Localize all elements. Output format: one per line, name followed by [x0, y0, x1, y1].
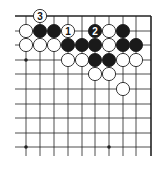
black-stone-circle [88, 38, 101, 51]
white-stone-circle [19, 24, 32, 37]
black-stone-circle [102, 53, 115, 66]
white-stone-circle [47, 38, 60, 51]
hoshi-point [24, 145, 28, 149]
white-stone [61, 53, 74, 66]
go-board-diagram: 312 [0, 0, 163, 171]
stones-layer: 312 [19, 9, 142, 95]
white-stone [47, 38, 60, 51]
white-stone [116, 53, 129, 66]
white-stone-circle [61, 53, 74, 66]
black-stone-circle [129, 38, 142, 51]
white-stone [102, 24, 115, 37]
black-stone [129, 38, 142, 51]
white-stone [102, 38, 115, 51]
black-stone-circle [88, 53, 101, 66]
black-stone-circle [61, 38, 74, 51]
white-stone [75, 53, 88, 66]
white-stone-circle [88, 67, 101, 80]
white-stone [19, 24, 32, 37]
white-stone [129, 53, 142, 66]
white-stone-circle [116, 82, 129, 95]
white-stone [19, 38, 32, 51]
black-stone-circle [116, 38, 129, 51]
black-stone [88, 38, 101, 51]
black-stone [61, 38, 74, 51]
black-stone [47, 24, 60, 37]
white-stone-circle [75, 53, 88, 66]
move-number-label: 2 [92, 26, 98, 37]
black-stone-circle [116, 24, 129, 37]
black-stone [102, 53, 115, 66]
white-stone [88, 67, 101, 80]
hoshi-point [24, 58, 28, 62]
white-stone-circle [33, 38, 46, 51]
hoshi-point [107, 145, 111, 149]
black-stone-circle [75, 38, 88, 51]
white-stone-circle [19, 38, 32, 51]
black-stone [33, 24, 46, 37]
white-stone-circle [129, 53, 142, 66]
white-stone-circle [116, 53, 129, 66]
board-grid [15, 16, 151, 156]
white-stone [116, 82, 129, 95]
white-stone-circle [102, 24, 115, 37]
white-stone-circle [102, 38, 115, 51]
move-number-label: 3 [37, 11, 43, 22]
black-stone [116, 38, 129, 51]
white-stone [102, 67, 115, 80]
black-stone [88, 53, 101, 66]
white-stone-circle [102, 67, 115, 80]
move-number-label: 1 [65, 26, 71, 37]
white-stone [33, 38, 46, 51]
black-stone-circle [47, 24, 60, 37]
black-stone [75, 38, 88, 51]
white-stone: 1 [61, 24, 74, 37]
white-stone: 3 [33, 9, 46, 22]
black-stone [116, 24, 129, 37]
black-stone-circle [33, 24, 46, 37]
black-stone: 2 [88, 24, 101, 37]
